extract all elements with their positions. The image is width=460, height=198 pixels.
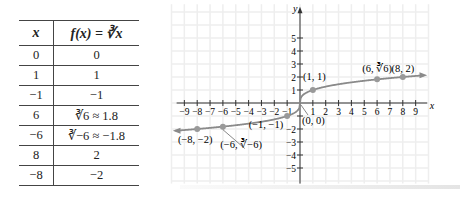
x-tick-label: 6 xyxy=(375,107,380,117)
cube-root-graph: xy−9−8−7−6−5−4−3−2−1123456789−5−4−3−2123… xyxy=(0,0,460,198)
leader-line xyxy=(301,105,308,115)
point-label: (−1, −1) xyxy=(249,119,284,131)
y-tick-label: −2 xyxy=(286,125,296,135)
y-tick-label: 4 xyxy=(291,47,296,57)
data-point xyxy=(374,76,380,82)
point-label: (−6, ∛−6) xyxy=(220,138,262,151)
point-label: (−8, −2) xyxy=(178,134,213,146)
y-tick-label: 3 xyxy=(291,60,296,70)
x-tick-label: −3 xyxy=(256,107,266,117)
x-tick-label: 5 xyxy=(362,107,367,117)
x-tick-label: −2 xyxy=(269,107,279,117)
y-tick-label: −3 xyxy=(286,138,296,148)
x-tick-label: −9 xyxy=(179,107,189,117)
x-tick-label: 3 xyxy=(336,107,341,117)
point-label: (1, 1) xyxy=(303,71,326,83)
x-tick-label: −6 xyxy=(218,107,228,117)
point-label: (6, ∛6) xyxy=(362,62,392,75)
x-tick-label: 9 xyxy=(413,107,418,117)
x-tick-label: 7 xyxy=(388,107,393,117)
x-tick-label: −7 xyxy=(205,107,215,117)
bottom-shadow xyxy=(180,185,460,189)
x-tick-label: 8 xyxy=(400,107,405,117)
data-point xyxy=(220,124,226,130)
y-tick-label: 1 xyxy=(291,86,296,96)
y-tick-label: −4 xyxy=(286,151,296,161)
x-tick-label: −4 xyxy=(244,107,254,117)
y-axis-label: y xyxy=(292,3,298,14)
point-label: (8, 2) xyxy=(391,63,414,75)
y-axis-arrow-icon xyxy=(298,7,303,14)
x-tick-label: −8 xyxy=(192,107,202,117)
data-point xyxy=(194,126,200,132)
x-tick-label: −5 xyxy=(231,107,241,117)
point-label: (0, 0) xyxy=(302,115,325,127)
y-tick-label: −5 xyxy=(286,164,296,174)
y-tick-label: 5 xyxy=(291,34,296,44)
data-point xyxy=(284,113,290,119)
data-point xyxy=(400,74,406,80)
data-point xyxy=(310,87,316,93)
x-tick-label: 4 xyxy=(349,107,354,117)
x-axis-label: x xyxy=(429,100,435,111)
y-tick-label: 2 xyxy=(291,73,296,83)
